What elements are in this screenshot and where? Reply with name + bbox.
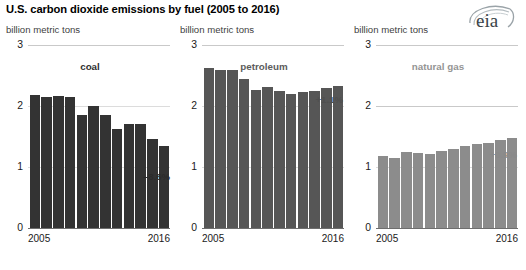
units-label-coal: billion metric tons [6, 24, 80, 35]
bar [124, 124, 134, 228]
xaxis-natural-gas: 2005 2016 [376, 233, 518, 249]
bar [159, 146, 169, 228]
ytick-1: 1 [354, 162, 371, 172]
ytick-3: 3 [6, 40, 23, 50]
bar [425, 154, 435, 228]
ytick-3: 3 [354, 40, 371, 50]
bar [65, 97, 75, 228]
bar [286, 94, 296, 228]
bar [53, 96, 63, 228]
plot-area-coal: coal 3 2 1 0 –8.6% 2005 2016 [6, 45, 174, 249]
xtick-start: 2005 [202, 233, 224, 244]
ytick-1: 1 [180, 162, 197, 172]
pct-change-coal: –8.6% [143, 171, 170, 182]
ytick-1: 1 [6, 162, 23, 172]
ytick-2: 2 [180, 101, 197, 111]
bar [378, 156, 388, 228]
panel-coal: billion metric tons coal 3 2 1 0 –8.6% 2… [6, 24, 174, 270]
bar [227, 70, 237, 228]
xtick-start: 2005 [376, 233, 398, 244]
xaxis-petroleum: 2005 2016 [202, 233, 344, 249]
pct-change-petroleum: +1.1% [316, 94, 343, 105]
bar [448, 149, 458, 228]
bar [215, 70, 225, 228]
bar [321, 88, 331, 228]
plot-area-petroleum: petroleum 3 2 1 0 +1.1% 2005 2016 [180, 45, 348, 249]
bar-group-petroleum [203, 45, 344, 228]
axis-zero-line [202, 228, 344, 229]
xtick-end: 2016 [148, 233, 170, 244]
bar [77, 115, 87, 228]
xaxis-coal: 2005 2016 [28, 233, 170, 249]
page-title: U.S. carbon dioxide emissions by fuel (2… [6, 3, 279, 15]
bar-group-natural-gas [377, 45, 518, 228]
bar [274, 91, 284, 228]
bar [460, 146, 470, 228]
bar [436, 151, 446, 228]
bar [30, 95, 40, 228]
xtick-end: 2016 [496, 233, 518, 244]
bar [389, 158, 399, 228]
bar [309, 91, 319, 228]
ytick-0: 0 [180, 223, 197, 233]
bar [298, 92, 308, 228]
bar-group-coal [29, 45, 170, 228]
xtick-start: 2005 [28, 233, 50, 244]
bar [147, 139, 157, 228]
xtick-end: 2016 [322, 233, 344, 244]
units-label-natural-gas: billion metric tons [354, 24, 428, 35]
bar [413, 153, 423, 228]
bar [472, 144, 482, 228]
plot-area-natural-gas: natural gas 3 2 1 0 +0.9% 2005 2016 [354, 45, 522, 249]
ytick-0: 0 [354, 223, 371, 233]
bar [41, 97, 51, 228]
bar [333, 86, 343, 228]
bar [88, 106, 98, 228]
panel-petroleum: billion metric tons petroleum 3 2 1 0 +1… [180, 24, 348, 270]
ytick-3: 3 [180, 40, 197, 50]
axis-zero-line [28, 228, 170, 229]
bar [239, 79, 249, 228]
ytick-2: 2 [354, 101, 371, 111]
ytick-0: 0 [6, 223, 23, 233]
panel-natural-gas: billion metric tons natural gas 3 2 1 0 … [354, 24, 522, 270]
bar [112, 129, 122, 228]
bar [401, 152, 411, 228]
pct-change-natural-gas: +0.9% [490, 149, 517, 160]
bar [262, 87, 272, 228]
axis-zero-line [376, 228, 518, 229]
bar [251, 90, 261, 228]
bar [100, 115, 110, 228]
chart-figure: U.S. carbon dioxide emissions by fuel (2… [0, 0, 526, 270]
bar [204, 68, 214, 228]
units-label-petroleum: billion metric tons [180, 24, 254, 35]
ytick-2: 2 [6, 101, 23, 111]
